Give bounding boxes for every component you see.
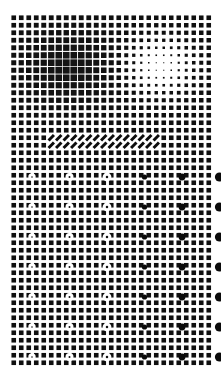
grid-stimulus-canvas [0, 0, 221, 375]
stimulus-stage: Textured Grid Perception Stimulus [0, 0, 221, 375]
